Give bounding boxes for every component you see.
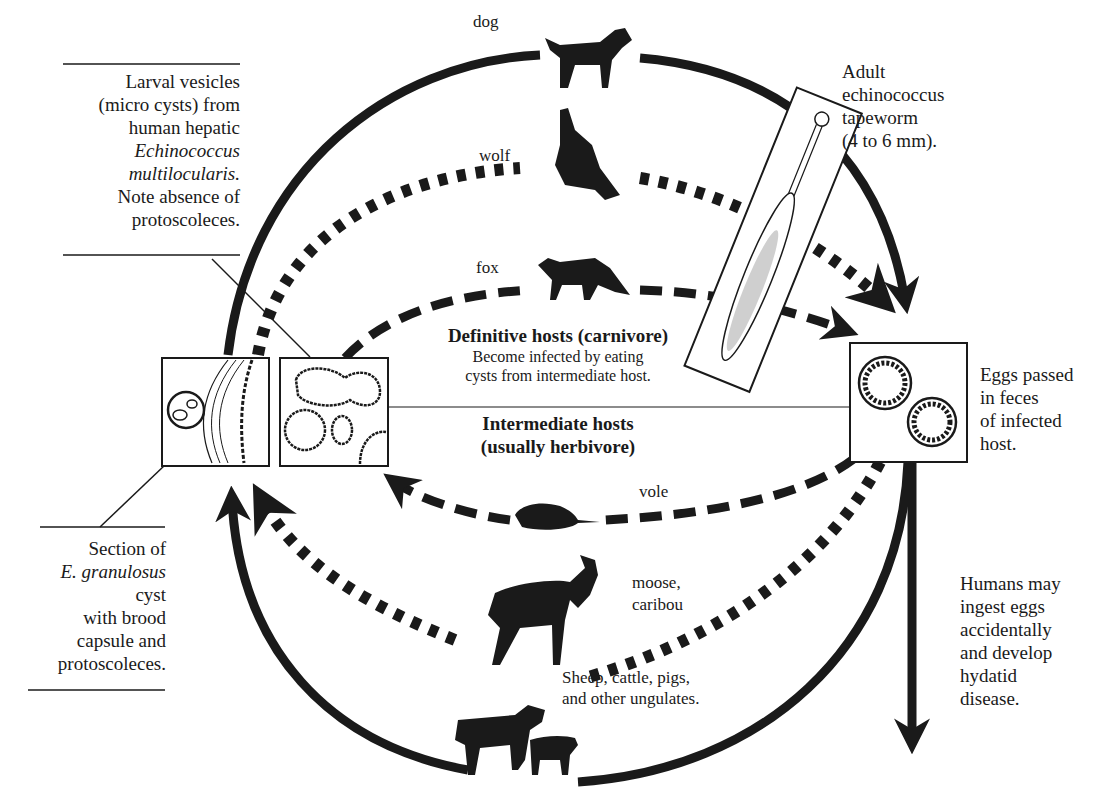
dog-icon [545,28,632,88]
adult-note-line: (4 to 6 mm). [842,129,944,152]
eggs-note: Eggs passed in feces of infected host. [980,363,1073,455]
larval-note-line: (micro cysts) from [40,93,240,116]
humans-note-line: ingest eggs [960,595,1061,618]
ungulates-line1: Sheep, cattle, pigs, [562,667,699,688]
vole-icon [515,503,600,529]
dog-label: dog [473,12,499,32]
sheep-icon [530,736,578,775]
humans-note-line: Humans may [960,572,1061,595]
adult-note-line: Adult [842,60,944,83]
eggs-note-line: Eggs passed [980,363,1073,386]
moose-label: moose, [632,573,681,593]
definitive-hosts-line2: cysts from intermediate host. [388,366,728,385]
adult-note-line: tapeworm [842,106,944,129]
humans-note-line: hydatid [960,664,1061,687]
fox-icon [538,258,630,300]
section-note-line: cyst [20,583,166,606]
eggs-note-line: in feces [980,386,1073,409]
wolf-icon [555,108,620,200]
larval-note-species-name: multilocularis. [40,162,240,185]
larval-vesicles-note: Larval vesicles (micro cysts) from human… [40,70,240,231]
vole-label: vole [639,482,668,502]
granulosus-section-note: Section of E. granulosus cyst with brood… [20,537,166,675]
larval-note-line: Note absence of [40,185,240,208]
adult-note-line: echinococcus [842,83,944,106]
larval-note-line: human hepatic [40,116,240,139]
intermediate-hosts-heading: Intermediate hosts [448,412,668,435]
humans-note-line: and develop [960,641,1061,664]
humans-note-line: accidentally [960,618,1061,641]
eggs-note-line: of infected [980,409,1073,432]
wolf-label: wolf [479,146,510,166]
ungulates-note: Sheep, cattle, pigs, and other ungulates… [562,667,699,709]
larval-note-line: protoscoleces. [40,208,240,231]
humans-note: Humans may ingest eggs accidentally and … [960,572,1061,710]
section-note-line: Section of [20,537,166,560]
granulosus-cyst-panel [162,358,269,466]
section-note-line: capsule and [20,629,166,652]
definitive-hosts-block: Definitive hosts (carnivore) Become infe… [388,324,728,385]
definitive-hosts-line1: Become infected by eating [388,347,728,366]
fox-label: fox [476,258,499,278]
larval-vesicles-panel [280,358,388,466]
eggs-note-line: host. [980,432,1073,455]
moose-icon [488,555,598,665]
caribou-label: caribou [632,595,683,615]
definitive-hosts-heading: Definitive hosts (carnivore) [388,324,728,347]
section-note-line: protoscoleces. [20,652,166,675]
larval-note-species-genus: Echinococcus [40,139,240,162]
section-note-line: with brood [20,606,166,629]
larval-note-line: Larval vesicles [40,70,240,93]
section-note-species: E. granulosus [20,560,166,583]
intermediate-hosts-subheading: (usually herbivore) [448,435,668,458]
intermediate-hosts-block: Intermediate hosts (usually herbivore) [448,412,668,458]
humans-note-line: disease. [960,687,1061,710]
ungulates-line2: and other ungulates. [562,688,699,709]
adult-tapeworm-note: Adult echinococcus tapeworm (4 to 6 mm). [842,60,944,152]
eggs-panel [850,343,967,462]
